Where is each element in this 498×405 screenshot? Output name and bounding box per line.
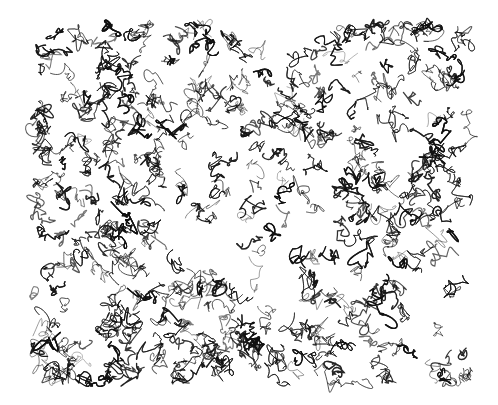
scribble-drawing [0,0,498,405]
scribble-artwork [0,0,498,405]
